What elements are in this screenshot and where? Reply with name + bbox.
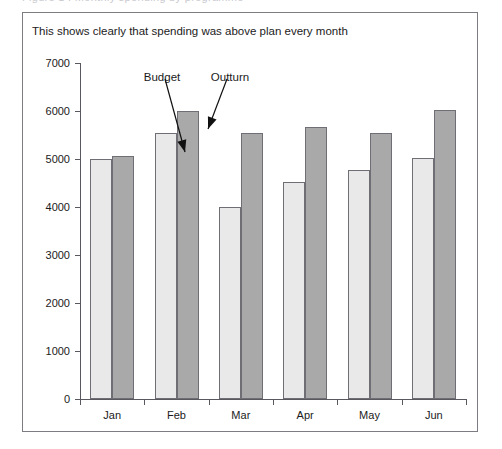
y-tick-mark [75, 303, 80, 304]
y-tick-label: 3000 [26, 249, 70, 261]
plot-area: 01000200030004000500060007000 JanFebMarA… [23, 13, 479, 433]
x-separator-tick [273, 399, 274, 405]
y-tick-mark [75, 351, 80, 352]
bar-outturn-jun [434, 110, 456, 399]
annotation-label-outturn: Outturn [211, 71, 249, 83]
x-tick-label-may: May [359, 409, 380, 421]
bar-budget-may [348, 170, 370, 399]
y-tick-label: 6000 [26, 105, 70, 117]
y-tick-mark [75, 111, 80, 112]
y-tick-mark [75, 255, 80, 256]
x-separator-tick [402, 399, 403, 405]
bar-outturn-apr [305, 127, 327, 399]
y-tick-mark [75, 63, 80, 64]
x-separator-tick [466, 399, 467, 405]
x-separator-tick [337, 399, 338, 405]
y-tick-label: 7000 [26, 57, 70, 69]
y-tick-label: 5000 [26, 153, 70, 165]
bar-budget-feb [155, 133, 177, 399]
y-tick-label: 4000 [26, 201, 70, 213]
x-tick-label-feb: Feb [167, 409, 186, 421]
chart-frame: This shows clearly that spending was abo… [22, 12, 478, 432]
y-tick-label: 0 [26, 393, 70, 405]
bar-budget-jun [412, 158, 434, 399]
x-tick-label-jun: Jun [425, 409, 443, 421]
bar-budget-mar [219, 207, 241, 399]
x-tick-label-apr: Apr [297, 409, 314, 421]
bar-outturn-jan [112, 156, 134, 399]
clipped-header-strip: Figure 1 : Monthly spending by programme [0, 0, 502, 10]
x-separator-tick [209, 399, 210, 405]
y-tick-label: 2000 [26, 297, 70, 309]
bar-outturn-feb [177, 111, 199, 399]
bar-budget-apr [283, 182, 305, 399]
y-tick-mark [75, 159, 80, 160]
x-tick-label-jan: Jan [103, 409, 121, 421]
y-tick-label: 1000 [26, 345, 70, 357]
x-tick-label-mar: Mar [231, 409, 250, 421]
x-separator-tick [80, 399, 81, 405]
clipped-header-text: Figure 1 : Monthly spending by programme [22, 0, 244, 3]
y-axis-line [80, 63, 81, 399]
bar-budget-jan [90, 159, 112, 399]
bar-outturn-may [370, 133, 392, 399]
y-tick-mark [75, 207, 80, 208]
bar-outturn-mar [241, 133, 263, 399]
annotation-label-budget: Budget [144, 71, 180, 83]
x-separator-tick [144, 399, 145, 405]
